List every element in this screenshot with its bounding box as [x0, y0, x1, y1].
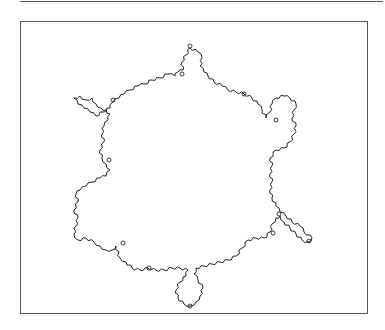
fractal-figure: [0, 0, 385, 330]
fractal-loop: [274, 118, 278, 122]
fractal-loop: [180, 72, 184, 76]
fractal-outline: [74, 48, 312, 306]
fractal-loop: [121, 241, 125, 245]
fractal-loop: [271, 231, 275, 235]
fractal-loop: [188, 44, 192, 48]
fractal-loop: [277, 212, 281, 216]
fractal-loop: [107, 158, 111, 162]
